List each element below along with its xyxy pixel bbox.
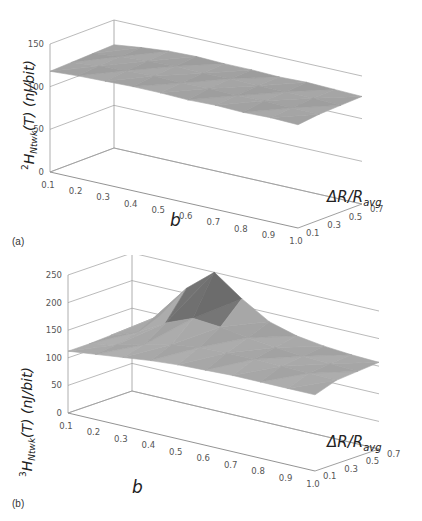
x-tick: 0.4 xyxy=(124,199,138,209)
x-tick: 0.6 xyxy=(179,211,193,221)
y-tick: 150 xyxy=(28,39,44,49)
x-tick: 0.7 xyxy=(207,217,221,227)
x-tick: 0.8 xyxy=(234,224,248,234)
x-tick: 1.0 xyxy=(306,479,320,489)
panel-label-a: (a) xyxy=(12,236,24,247)
y-axis-title-b: 3HNtwk(T) (nJ/bit) xyxy=(18,367,37,477)
depth-tick: 0.3 xyxy=(327,220,341,230)
x-tick: 0.8 xyxy=(251,466,265,476)
depth-tick: 0.7 xyxy=(387,449,401,459)
x-tick: 0.4 xyxy=(142,440,156,450)
x-tick: 0.6 xyxy=(196,453,210,463)
depth-tick: 0.3 xyxy=(344,464,358,474)
x-tick: 0.7 xyxy=(224,460,238,470)
y-tick: 0 xyxy=(57,408,62,418)
x-tick: 0.9 xyxy=(279,473,293,483)
depth-tick: 0.5 xyxy=(366,456,380,466)
y-tick: 250 xyxy=(46,270,62,280)
x-tick: 0.9 xyxy=(262,230,276,240)
z-axis-title-b: ΔR/Ravg xyxy=(327,433,382,453)
surface-chart-a: 0501001500.10.20.30.40.50.60.70.80.91.00… xyxy=(0,0,422,255)
y-tick: 50 xyxy=(51,380,62,390)
x-tick: 0.2 xyxy=(87,427,101,437)
x-tick: 0.5 xyxy=(169,447,183,457)
y-tick: 100 xyxy=(46,353,62,363)
surface-chart-b: 0501001502002500.10.20.30.40.50.60.70.80… xyxy=(0,255,422,521)
depth-tick: 0.5 xyxy=(349,212,363,222)
surface xyxy=(50,45,362,125)
x-tick: 0.5 xyxy=(151,205,165,215)
y-tick: 200 xyxy=(46,298,62,308)
panel-label-b: (b) xyxy=(12,498,24,509)
x-tick: 1.0 xyxy=(289,236,303,246)
surface xyxy=(68,272,379,394)
depth-tick: 0.1 xyxy=(323,471,337,481)
y-tick: 150 xyxy=(46,325,62,335)
y-axis-title-a: 2HNtwk(T) (nJ/bit) xyxy=(20,60,39,170)
x-tick: 0.3 xyxy=(114,434,128,444)
depth-tick: 0.1 xyxy=(306,228,320,238)
x-axis-title-a: b xyxy=(170,210,181,230)
z-axis-title-a: ΔR/Ravg xyxy=(327,188,382,208)
x-tick: 0.3 xyxy=(96,192,110,202)
chart-panel-b: 0501001502002500.10.20.30.40.50.60.70.80… xyxy=(0,255,422,521)
x-tick: 0.1 xyxy=(41,180,55,190)
chart-panel-a: 0501001500.10.20.30.40.50.60.70.80.91.00… xyxy=(0,0,422,255)
x-tick: 0.1 xyxy=(59,421,73,431)
x-axis-title-b: b xyxy=(132,477,143,497)
x-tick: 0.2 xyxy=(69,186,83,196)
